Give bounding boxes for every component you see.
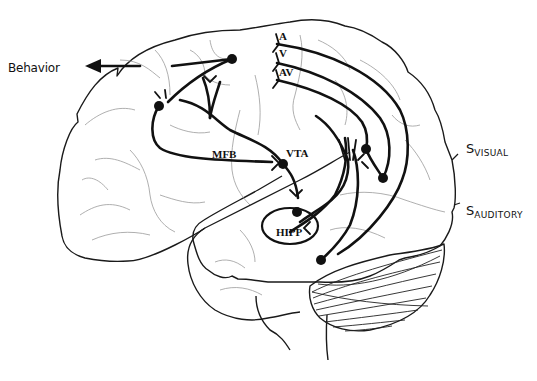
s-visual-sub: VISUAL bbox=[474, 148, 508, 158]
behavior-label: Behavior bbox=[8, 61, 60, 75]
sensory-bracket-ticks bbox=[452, 154, 460, 205]
a-label: A bbox=[279, 30, 287, 42]
vta-label: VTA bbox=[286, 147, 308, 159]
s-visual-label: SVISUAL bbox=[466, 141, 508, 156]
mfb-label: MFB bbox=[212, 148, 236, 160]
visual-relay-node bbox=[361, 144, 371, 154]
frontal-output-node bbox=[227, 54, 237, 64]
neural-pathways bbox=[97, 44, 408, 260]
s-auditory-label: SAUDITORY bbox=[466, 203, 523, 218]
visual-end-node bbox=[378, 173, 388, 183]
s-auditory-sub: AUDITORY bbox=[474, 210, 523, 220]
brain-outline bbox=[58, 20, 455, 360]
hipp-label: HIPP bbox=[276, 226, 302, 238]
v-label: V bbox=[279, 47, 287, 59]
auditory-node bbox=[316, 255, 326, 265]
vta-node bbox=[278, 159, 288, 169]
prefrontal-node bbox=[154, 101, 164, 111]
cerebellum-folia bbox=[312, 250, 442, 331]
av-label: AV bbox=[279, 66, 293, 78]
brain-pathway-diagram bbox=[0, 0, 537, 381]
behavior-arrowhead bbox=[85, 59, 101, 73]
hipp-node bbox=[292, 207, 302, 217]
brain-sulci bbox=[80, 35, 445, 295]
av-tract bbox=[277, 80, 367, 149]
